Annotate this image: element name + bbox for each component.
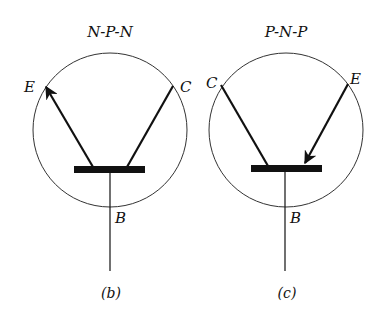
pnp-collector-label: C: [206, 74, 218, 92]
npn-emitter-lead-arrow-icon: [46, 87, 93, 167]
pnp-collector-lead: [221, 85, 268, 166]
pnp-emitter-lead-arrow-icon: [305, 84, 348, 163]
pnp-base-label: B: [289, 209, 301, 227]
npn-emitter-label: E: [23, 78, 35, 96]
npn-collector-lead: [127, 86, 173, 167]
npn-transistor-symbol: N-P-N E C B (b): [23, 23, 192, 301]
npn-base-label: B: [114, 209, 126, 227]
npn-caption: (b): [101, 285, 121, 301]
pnp-title: P-N-P: [264, 23, 309, 41]
npn-base-bar: [74, 166, 145, 173]
pnp-envelope-circle: [209, 53, 363, 207]
pnp-base-bar: [251, 165, 322, 172]
transistor-symbols-diagram: N-P-N E C B (b) P-N-P C E B (c): [0, 0, 379, 330]
pnp-transistor-symbol: P-N-P C E B (c): [206, 23, 363, 301]
npn-collector-label: C: [180, 78, 192, 96]
npn-title: N-P-N: [86, 23, 134, 41]
pnp-caption: (c): [278, 285, 297, 301]
pnp-emitter-label: E: [349, 70, 361, 88]
